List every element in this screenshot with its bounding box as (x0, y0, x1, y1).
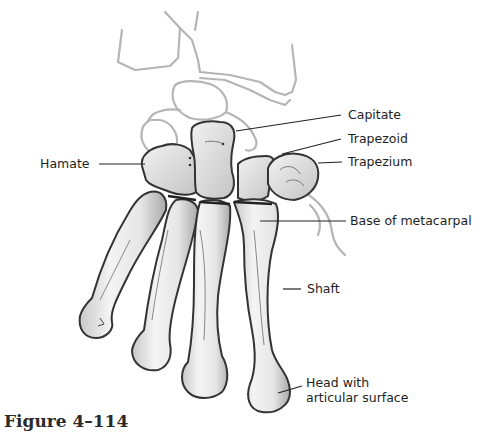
label-shaft: Shaft (307, 282, 340, 296)
second-metacarpal (234, 199, 290, 412)
label-base-of-metacarpal: Base of metacarpal (350, 214, 472, 228)
capitate-leader (236, 115, 341, 131)
label-head-line2: articular surface (306, 391, 408, 405)
label-trapezium: Trapezium (348, 155, 412, 169)
capitate-bone (191, 121, 234, 199)
trapezium-leader (318, 162, 342, 163)
trapezoid-leader (282, 139, 341, 154)
label-capitate: Capitate (348, 108, 401, 122)
label-hamate: Hamate (40, 157, 90, 171)
label-trapezoid: Trapezoid (348, 132, 408, 146)
anatomy-figure: Capitate Trapezoid Trapezium Hamate Base… (0, 0, 499, 439)
trapezium-bone (268, 154, 318, 200)
carpal-bones (142, 121, 319, 201)
hamate-bone (142, 144, 198, 195)
label-head-line1: Head with (306, 376, 369, 390)
figure-caption: Figure 4–114 (4, 411, 128, 431)
metacarpal-bones (80, 192, 290, 413)
